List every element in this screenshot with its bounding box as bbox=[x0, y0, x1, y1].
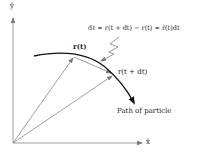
vector-r-t-dt bbox=[13, 76, 112, 143]
particle-path bbox=[34, 53, 134, 103]
x-axis-label: x̂ bbox=[146, 139, 150, 146]
label-r-t: r(t) bbox=[73, 43, 87, 50]
label-path-of-particle: Path of particle bbox=[117, 108, 172, 115]
label-r-t-dt: r(t + dt) bbox=[118, 69, 147, 76]
vector-r-t bbox=[13, 58, 73, 143]
y-axis-label: ŷ bbox=[10, 3, 14, 10]
axes bbox=[13, 18, 142, 143]
squiggle-pointer bbox=[101, 37, 119, 61]
label-equation: dℓ ≈ r(t + dt) − r(t) ≈ ṙ(t)dt bbox=[88, 25, 180, 32]
